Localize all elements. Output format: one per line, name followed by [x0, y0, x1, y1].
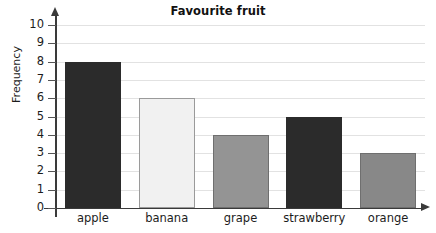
y-tick-mark [48, 98, 56, 99]
y-tick-mark [48, 62, 56, 63]
x-label-banana: banana [130, 211, 204, 225]
y-tick-mark [48, 43, 56, 44]
y-tick-label: 1 [8, 184, 44, 196]
x-label-orange: orange [351, 211, 425, 225]
gridline [56, 25, 425, 26]
y-tick-label: 8 [8, 56, 44, 68]
y-tick-mark [48, 117, 56, 118]
y-tick-mark [48, 171, 56, 172]
y-tick-label: 7 [8, 74, 44, 86]
y-axis-line [55, 14, 57, 217]
y-tick-mark [48, 25, 56, 26]
bar-chart: Favourite fruit Frequency 012345678910 a… [0, 0, 436, 233]
chart-title: Favourite fruit [0, 4, 436, 18]
bar-orange [360, 153, 416, 208]
bar-strawberry [286, 117, 342, 209]
bar-apple [65, 62, 121, 208]
y-tick-label: 2 [8, 165, 44, 177]
y-tick-mark [48, 153, 56, 154]
y-tick-mark [48, 135, 56, 136]
y-tick-label: 10 [8, 19, 44, 31]
y-tick-label: 0 [8, 202, 44, 214]
x-label-strawberry: strawberry [277, 211, 351, 225]
x-label-apple: apple [56, 211, 130, 225]
y-tick-label: 3 [8, 147, 44, 159]
y-tick-mark [48, 80, 56, 81]
y-tick-mark [48, 190, 56, 191]
y-tick-mark [48, 208, 56, 209]
plot-area [56, 25, 425, 208]
y-tick-label: 4 [8, 129, 44, 141]
x-label-grape: grape [204, 211, 278, 225]
bar-grape [213, 135, 269, 208]
y-tick-label: 5 [8, 111, 44, 123]
x-axis-line [44, 208, 422, 210]
y-tick-label: 6 [8, 92, 44, 104]
y-tick-label: 9 [8, 37, 44, 49]
y-axis-arrow-icon [51, 7, 59, 16]
bar-banana [139, 98, 195, 208]
gridline [56, 43, 425, 44]
x-axis-arrow-icon [421, 203, 430, 211]
